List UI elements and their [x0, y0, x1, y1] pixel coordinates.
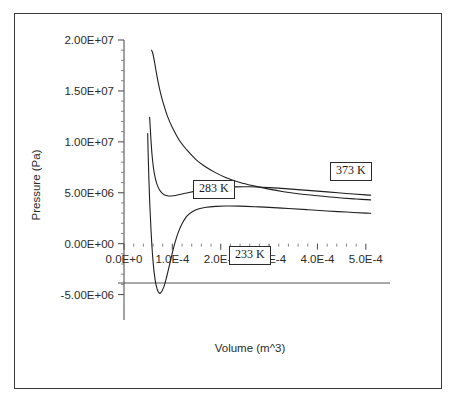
y-tick-label: -5.00E+06: [61, 289, 114, 301]
isotherm-curve-283k: [150, 117, 371, 196]
series-label-373k: 373 K: [330, 162, 372, 181]
y-tick-label: 0.00E+00: [64, 238, 114, 250]
y-tick-label: 2.00E+07: [64, 34, 114, 46]
x-axis-title: Volume (m^3): [215, 342, 286, 354]
chart-svg: 2.00E+071.50E+071.00E+075.00E+060.00E+00…: [0, 0, 459, 405]
y-axis-title: Pressure (Pa): [30, 149, 42, 220]
y-tick-label: 5.00E+06: [64, 187, 114, 199]
x-tick-label: 0.0E+0: [106, 253, 143, 265]
series-label-233k: 233 K: [229, 246, 271, 265]
plot-area: 2.00E+071.50E+071.00E+075.00E+060.00E+00…: [0, 0, 459, 405]
y-tick-label: 1.00E+07: [64, 136, 114, 148]
figure-root: 2.00E+071.50E+071.00E+075.00E+060.00E+00…: [0, 0, 459, 405]
y-tick-label: 1.50E+07: [64, 85, 114, 97]
series-label-283k: 283 K: [193, 180, 235, 199]
isotherm-curve-233k: [148, 134, 371, 293]
x-tick-label: 5.0E-4: [349, 253, 383, 265]
x-tick-label: 1.0E-4: [155, 253, 189, 265]
x-tick-label: 4.0E-4: [301, 253, 335, 265]
